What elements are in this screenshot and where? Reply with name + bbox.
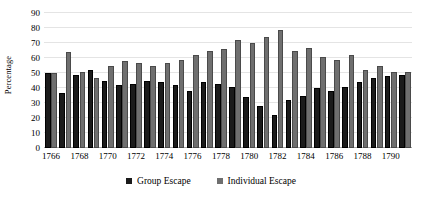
y-tick-label: 0 [36,144,41,153]
bar-individual-escape [136,63,142,149]
bar-group [72,13,86,148]
bar-group-escape [73,75,79,149]
bar-group-escape [144,81,150,149]
bar-group [285,13,299,148]
bar-group-escape [385,76,391,148]
x-tick-label: 1788 [353,150,371,162]
bar-group [129,13,143,148]
legend-label: Individual Escape [228,176,296,186]
bar-group [157,13,171,148]
y-tick-label: 60 [31,54,40,63]
y-tick-label: 50 [31,69,40,78]
bar-individual-escape [235,40,241,148]
bar-group-escape [243,97,249,148]
bar-individual-escape [391,72,397,149]
bar-group [242,13,256,148]
bar-group-escape [342,87,348,149]
bar-individual-escape [80,72,86,149]
bar-group-escape [116,85,122,148]
y-tick-label: 10 [31,129,40,138]
y-tick-label: 30 [31,99,40,108]
bar-chart-figure: Percentage 0102030405060708090 176617681… [0,0,422,201]
y-tick-label: 20 [31,114,40,123]
x-tick-label: 1778 [212,150,230,162]
bar-group [186,13,200,148]
legend-swatch-icon [217,178,223,184]
x-tick-label: 1786 [325,150,343,162]
bar-individual-escape [193,55,199,148]
x-tick-label: 1770 [99,150,117,162]
bar-individual-escape [179,60,185,149]
bar-group-escape [257,106,263,148]
bar-individual-escape [221,49,227,148]
bar-group [171,13,185,148]
bar-group [115,13,129,148]
bar-group [313,13,327,148]
bar-group-escape [272,115,278,148]
bar-individual-escape [264,37,270,148]
bar-group-escape [300,96,306,149]
x-axis-tick-labels: 1766176817701772177417761778178017821784… [44,150,412,164]
bar-group [299,13,313,148]
bar-group-escape [187,91,193,148]
bar-group-escape [59,93,65,149]
bar-individual-escape [306,48,312,149]
bar-group [341,13,355,148]
y-tick-label: 70 [31,39,40,48]
bar-group-escape [314,88,320,148]
x-tick-label: 1766 [42,150,60,162]
bar-group-escape [229,87,235,149]
bar-group-escape [328,91,334,148]
bar-group [384,13,398,148]
y-tick-label: 80 [31,24,40,33]
x-tick-label: 1784 [297,150,315,162]
bar-individual-escape [207,51,213,149]
bar-individual-escape [66,52,72,148]
bar-group-escape [399,75,405,149]
bar-group [256,13,270,148]
bar-individual-escape [363,70,369,148]
bar-group [214,13,228,148]
bar-group [58,13,72,148]
bar-individual-escape [250,43,256,148]
bar-group-escape [158,82,164,148]
bar-individual-escape [108,66,114,149]
bar-group [370,13,384,148]
y-axis-title-label: Percentage [3,56,13,94]
x-tick-label: 1768 [70,150,88,162]
bar-group [327,13,341,148]
bar-individual-escape [377,66,383,149]
bar-group-escape [173,85,179,148]
bar-individual-escape [334,60,340,149]
bar-individual-escape [320,57,326,149]
x-tick-label: 1776 [184,150,202,162]
y-tick-label: 90 [31,9,40,18]
bar-group-escape [215,84,221,149]
bar-group-escape [201,82,207,148]
x-tick-label: 1782 [269,150,287,162]
bar-group [228,13,242,148]
plot-area [44,13,412,148]
bar-group [355,13,369,148]
bar-group-escape [371,78,377,149]
bar-group-escape [286,100,292,148]
bar-group-escape [357,82,363,148]
bar-group [200,13,214,148]
bar-group [101,13,115,148]
legend-entry: Individual Escape [217,176,296,186]
bar-group [143,13,157,148]
bar-group [398,13,412,148]
x-tick-label: 1774 [155,150,173,162]
legend-label: Group Escape [137,176,191,186]
chart-legend: Group EscapeIndividual Escape [0,176,422,186]
bar-individual-escape [150,66,156,149]
bar-group-escape [102,81,108,149]
bar-group-escape [45,73,51,148]
bar-individual-escape [349,55,355,148]
x-tick-label: 1772 [127,150,145,162]
bar-group-escape [88,70,94,148]
bar-individual-escape [292,51,298,149]
x-tick-label: 1790 [382,150,400,162]
bar-individual-escape [278,30,284,149]
y-axis-tick-labels: 0102030405060708090 [14,13,40,148]
